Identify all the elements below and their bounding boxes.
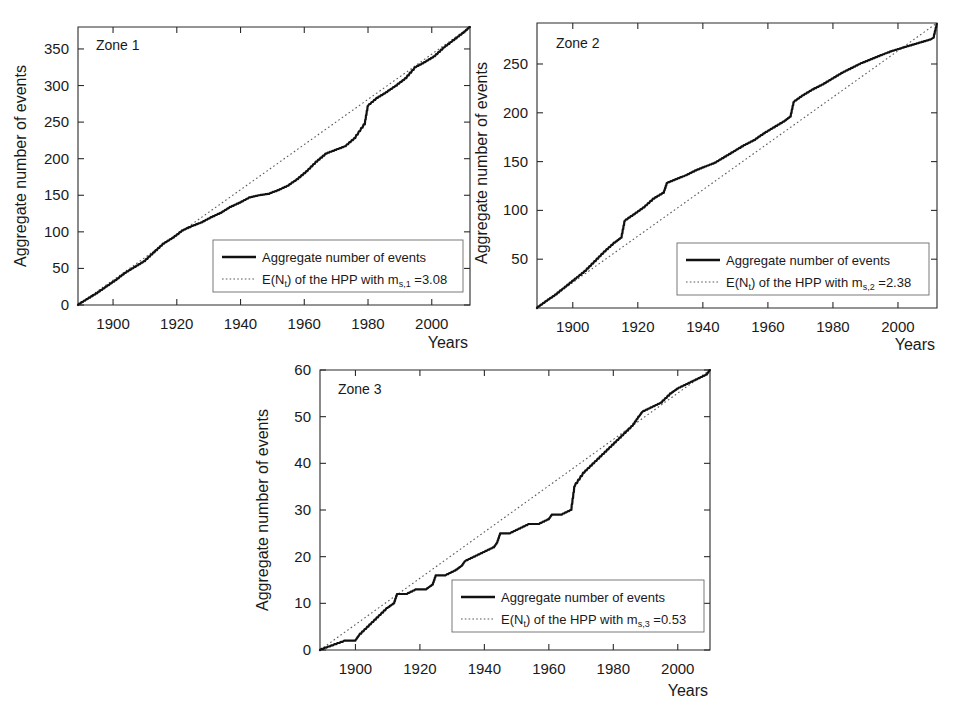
x-tick-label: 1980 bbox=[351, 315, 384, 332]
y-ticklabels-zone-3: 0102030405060 bbox=[294, 361, 311, 658]
y-tick-label: 0 bbox=[61, 296, 69, 313]
legend-label-series-zone-2: Aggregate number of events bbox=[726, 253, 891, 268]
y-tick-label: 50 bbox=[52, 259, 69, 276]
x-tick-label: 1960 bbox=[751, 318, 784, 335]
chart-zone-2: 50100150200250 190019201940196019802000 … bbox=[470, 0, 957, 355]
x-ticklabels-zone-2: 190019201940196019802000 bbox=[556, 318, 915, 335]
y-axis-label-zone-2: Aggregate number of events bbox=[473, 62, 490, 264]
legend-label-hpp-zone-2: E(Nt) of the HPP with ms,2 =2.38 bbox=[726, 275, 911, 292]
x-tick-label: 1900 bbox=[339, 660, 372, 677]
legend-label-hpp-zone-3: E(Nt) of the HPP with ms,3 =0.53 bbox=[501, 612, 686, 629]
chart-zone-1: 050100150200250300350 190019201940196019… bbox=[0, 0, 480, 355]
zone-title-zone-2: Zone 2 bbox=[556, 35, 600, 51]
x-tick-label: 2000 bbox=[881, 318, 914, 335]
x-tick-label: 1920 bbox=[403, 660, 436, 677]
x-tick-label: 2000 bbox=[661, 660, 694, 677]
x-ticklabels-zone-1: 190019201940196019802000 bbox=[96, 315, 448, 332]
y-ticks-zone-2 bbox=[537, 64, 937, 259]
y-axis-label-zone-1: Aggregate number of events bbox=[12, 65, 29, 267]
x-axis-label-zone-3: Years bbox=[668, 682, 708, 699]
x-tick-label: 2000 bbox=[415, 315, 448, 332]
y-tick-label: 10 bbox=[294, 594, 311, 611]
y-tick-label: 200 bbox=[503, 104, 528, 121]
figure-three-zone-aggregate-events: 050100150200250300350 190019201940196019… bbox=[0, 0, 957, 711]
y-tick-label: 100 bbox=[44, 223, 69, 240]
y-tick-label: 150 bbox=[503, 153, 528, 170]
x-tick-label: 1980 bbox=[597, 660, 630, 677]
y-tick-label: 100 bbox=[503, 201, 528, 218]
x-tick-label: 1900 bbox=[556, 318, 589, 335]
panel-zone-3: 0102030405060 190019201940196019802000 A… bbox=[240, 352, 730, 711]
panel-zone-1: 050100150200250300350 190019201940196019… bbox=[0, 0, 480, 355]
x-tick-label: 1940 bbox=[468, 660, 501, 677]
legend-zone-1: Aggregate number of events E(Nt) of the … bbox=[213, 240, 463, 292]
x-tick-label: 1940 bbox=[686, 318, 719, 335]
x-tick-label: 1900 bbox=[96, 315, 129, 332]
x-tick-label: 1920 bbox=[160, 315, 193, 332]
x-tick-label: 1940 bbox=[224, 315, 257, 332]
x-axis-label-zone-1: Years bbox=[428, 334, 468, 351]
y-tick-label: 60 bbox=[294, 361, 311, 378]
chart-zone-3: 0102030405060 190019201940196019802000 A… bbox=[240, 352, 730, 711]
panel-zone-2: 50100150200250 190019201940196019802000 … bbox=[470, 0, 957, 355]
x-tick-label: 1920 bbox=[621, 318, 654, 335]
y-tick-label: 200 bbox=[44, 150, 69, 167]
y-tick-label: 250 bbox=[44, 113, 69, 130]
y-tick-label: 350 bbox=[44, 40, 69, 57]
legend-label-series-zone-1: Aggregate number of events bbox=[262, 250, 427, 265]
zone-title-zone-1: Zone 1 bbox=[96, 37, 140, 53]
legend-zone-3: Aggregate number of events E(Nt) of the … bbox=[452, 580, 704, 632]
y-ticklabels-zone-2: 50100150200250 bbox=[503, 55, 528, 267]
x-ticklabels-zone-3: 190019201940196019802000 bbox=[339, 660, 695, 677]
legend-zone-2: Aggregate number of events E(Nt) of the … bbox=[677, 243, 929, 295]
y-tick-label: 40 bbox=[294, 454, 311, 471]
y-tick-label: 250 bbox=[503, 55, 528, 72]
y-tick-label: 150 bbox=[44, 186, 69, 203]
x-tick-label: 1960 bbox=[532, 660, 565, 677]
y-tick-label: 50 bbox=[511, 250, 528, 267]
zone-title-zone-3: Zone 3 bbox=[338, 381, 382, 397]
y-ticklabels-zone-1: 050100150200250300350 bbox=[44, 40, 69, 313]
y-tick-label: 20 bbox=[294, 548, 311, 565]
y-tick-label: 30 bbox=[294, 501, 311, 518]
y-tick-label: 300 bbox=[44, 77, 69, 94]
y-tick-label: 0 bbox=[303, 641, 311, 658]
legend-label-hpp-zone-1: E(Nt) of the HPP with ms,1 =3.08 bbox=[262, 272, 447, 289]
y-axis-label-zone-3: Aggregate number of events bbox=[254, 409, 271, 611]
x-tick-label: 1960 bbox=[288, 315, 321, 332]
y-tick-label: 50 bbox=[294, 408, 311, 425]
x-tick-label: 1980 bbox=[816, 318, 849, 335]
legend-label-series-zone-3: Aggregate number of events bbox=[501, 590, 666, 605]
x-axis-label-zone-2: Years bbox=[895, 336, 935, 353]
